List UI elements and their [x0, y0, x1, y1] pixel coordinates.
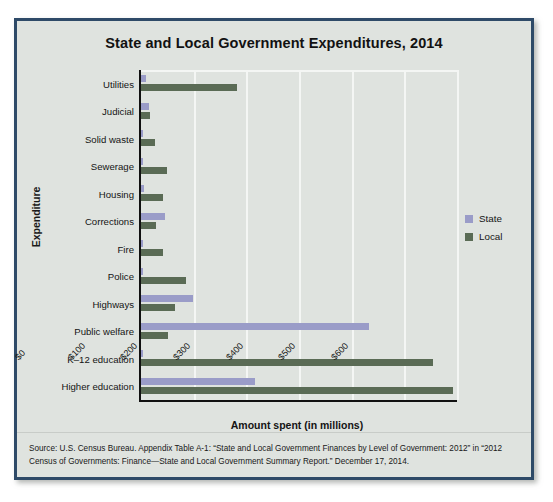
legend: StateLocal: [465, 213, 502, 249]
category-label: Sewerage: [91, 161, 134, 172]
x-tick-label: $0: [13, 348, 27, 362]
bar-row: Solid waste: [141, 125, 457, 153]
category-label: Utilities: [103, 78, 134, 89]
source-divider: [17, 432, 531, 433]
x-tick-label: $100: [66, 341, 87, 362]
x-tick-label: $200: [118, 341, 139, 362]
bar-state: [141, 103, 149, 110]
bar-local: [141, 249, 163, 256]
bar-row: Highways: [141, 290, 457, 318]
gridline: [457, 70, 459, 400]
bar-local: [141, 84, 237, 91]
bar-state: [141, 295, 193, 302]
bar-local: [141, 277, 186, 284]
chart-figure: State and Local Government Expenditures,…: [14, 18, 534, 480]
legend-swatch-icon: [465, 233, 473, 241]
legend-label: State: [479, 213, 502, 224]
legend-label: Local: [479, 231, 502, 242]
bar-local: [141, 222, 156, 229]
category-label: Housing: [99, 188, 134, 199]
x-axis-title: Amount spent (in millions): [139, 419, 455, 431]
bar-row: Public welfare: [141, 318, 457, 346]
category-label: Highways: [92, 298, 134, 309]
bar-row: Police: [141, 263, 457, 291]
bar-local: [141, 304, 175, 311]
bar-state: [141, 130, 143, 137]
bar-row: Utilities: [141, 70, 457, 98]
x-axis-ticks: $0$100$200$300$400$500$600: [17, 355, 333, 395]
bar-row: Corrections: [141, 208, 457, 236]
chart-title: State and Local Government Expenditures,…: [17, 35, 531, 51]
bar-local: [141, 112, 150, 119]
legend-entry: Local: [465, 231, 502, 242]
bar-state: [141, 323, 369, 330]
bar-local: [141, 194, 163, 201]
category-label: Solid waste: [85, 133, 134, 144]
bar-state: [141, 268, 143, 275]
category-label: Fire: [117, 243, 134, 254]
bar-state: [141, 213, 165, 220]
category-label: Judicial: [102, 106, 134, 117]
bar-row: Sewerage: [141, 153, 457, 181]
category-label: Corrections: [85, 216, 134, 227]
bar-state: [141, 75, 146, 82]
bar-state: [141, 185, 144, 192]
bar-row: Housing: [141, 180, 457, 208]
legend-swatch-icon: [465, 215, 473, 223]
bar-state: [141, 158, 143, 165]
bar-row: Judicial: [141, 98, 457, 126]
bar-row: Fire: [141, 235, 457, 263]
bar-local: [141, 167, 167, 174]
bar-local: [141, 332, 168, 339]
category-label: Public welfare: [74, 326, 134, 337]
y-axis-title: Expenditure: [30, 162, 42, 272]
bar-local: [141, 139, 155, 146]
category-label: Police: [108, 271, 134, 282]
source-note: Source: U.S. Census Bureau. Appendix Tab…: [29, 443, 519, 468]
bar-state: [141, 240, 143, 247]
legend-entry: State: [465, 213, 502, 224]
